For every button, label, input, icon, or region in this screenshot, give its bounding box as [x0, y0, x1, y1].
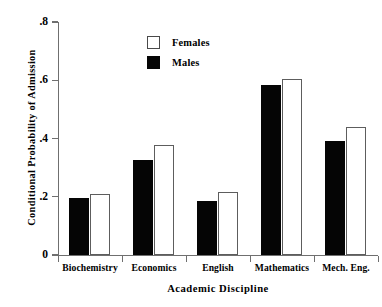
bar-english-females: [218, 192, 238, 255]
bar-chart: Conditional Probability of Admission .8.…: [0, 0, 382, 307]
y-axis-tick-label: .4: [8, 133, 48, 145]
bar-english-males: [197, 201, 217, 255]
y-axis-tick-label: .6: [8, 74, 48, 86]
chart-legend: FemalesMales: [147, 32, 210, 72]
bar-economics-females: [154, 145, 174, 255]
y-axis-tick-mark: [52, 21, 58, 22]
bar-mathematics-females: [282, 79, 302, 255]
legend-item-females: Females: [147, 32, 210, 52]
bar-mathematics-males: [261, 85, 281, 255]
bar-biochemistry-males: [69, 198, 89, 255]
x-axis-label-mech-eng: Mech. Eng.: [306, 262, 382, 273]
bar-mech-eng-males: [325, 141, 345, 255]
bar-mech-eng-females: [346, 127, 366, 255]
y-axis-tick-mark: [52, 80, 58, 81]
legend-item-males: Males: [147, 52, 210, 72]
legend-swatch-icon-males: [147, 56, 160, 69]
y-axis-tick-label: .2: [8, 191, 48, 203]
y-axis-tick-label: 0: [8, 249, 48, 261]
legend-swatch-icon-females: [147, 36, 160, 49]
x-axis-title: Academic Discipline: [58, 283, 378, 294]
legend-label: Males: [172, 57, 200, 68]
y-axis-line: [58, 22, 59, 256]
y-axis-tick-mark: [52, 196, 58, 197]
legend-label: Females: [172, 37, 210, 48]
x-axis-line: [58, 255, 378, 256]
y-axis-tick-label: .8: [8, 16, 48, 28]
y-axis-tick-mark: [52, 138, 58, 139]
bar-biochemistry-females: [90, 194, 110, 255]
bar-economics-males: [133, 160, 153, 255]
